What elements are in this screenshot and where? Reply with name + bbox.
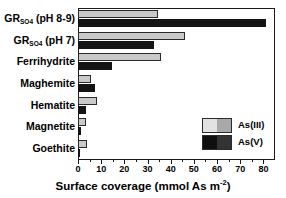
bar-asiii-0 — [78, 10, 158, 18]
category-label-base: Ferrihydrite — [17, 55, 75, 67]
x-tick-minor-75 — [252, 160, 253, 162]
x-tick-label-70: 70 — [228, 164, 252, 174]
category-label-base: Magnetite — [26, 120, 75, 132]
category-label-subscript: SO4 — [20, 18, 33, 25]
legend-label-as3: As(III) — [238, 119, 264, 130]
legend-swatch-as3 — [202, 118, 232, 133]
bar-asv-0 — [78, 19, 266, 27]
bar-asiii-2 — [78, 53, 161, 61]
legend: As(III) As(V) — [198, 116, 274, 158]
category-label-base: GR — [14, 34, 30, 46]
x-tick-label-40: 40 — [159, 164, 183, 174]
x-tick-minor-55 — [205, 160, 206, 162]
category-label-3: Maghemite — [0, 78, 75, 89]
x-tick-minor-5 — [90, 160, 91, 162]
category-label-4: Hematite — [0, 100, 75, 111]
legend-swatch-as5 — [202, 135, 232, 150]
x-tick-minor-65 — [229, 160, 230, 162]
x-axis-title-close: ) — [227, 180, 231, 192]
bar-asiii-1 — [78, 32, 185, 40]
x-tick-label-0: 0 — [66, 164, 90, 174]
category-label-suffix: (pH 8-9) — [33, 12, 75, 24]
category-label-2: Ferrihydrite — [0, 56, 75, 67]
x-tick-label-10: 10 — [89, 164, 113, 174]
category-label-suffix: (pH 7) — [42, 34, 75, 46]
bar-chart-figure: GRSO4 (pH 8-9)GRSO4 (pH 7)FerrihydriteMa… — [0, 0, 286, 198]
x-tick-minor-25 — [136, 160, 137, 162]
category-label-base: Goethite — [32, 142, 75, 154]
legend-label-as5: As(V) — [238, 136, 263, 147]
category-label-0: GRSO4 (pH 8-9) — [0, 13, 75, 25]
bar-asiii-6 — [78, 140, 87, 148]
bar-asv-4 — [78, 106, 86, 114]
x-tick-label-20: 20 — [112, 164, 136, 174]
bar-asiii-3 — [78, 75, 91, 83]
bar-asiii-4 — [78, 97, 97, 105]
bar-asv-1 — [78, 41, 154, 49]
category-label-base: Maghemite — [20, 77, 75, 89]
bar-asv-2 — [78, 62, 112, 70]
x-tick-minor-45 — [182, 160, 183, 162]
category-label-6: Goethite — [0, 143, 75, 154]
x-tick-label-50: 50 — [182, 164, 206, 174]
x-axis-title-exponent: -2 — [220, 178, 227, 187]
x-axis-title: Surface coverage (mmol As m-2) — [0, 178, 286, 192]
bar-asv-5 — [78, 127, 81, 135]
x-tick-label-80: 80 — [251, 164, 275, 174]
bar-asv-6 — [78, 149, 80, 157]
x-axis: 01020304050607080 — [78, 160, 275, 178]
x-tick-label-60: 60 — [205, 164, 229, 174]
x-tick-minor-35 — [159, 160, 160, 162]
category-label-base: GR — [4, 12, 20, 24]
category-label-5: Magnetite — [0, 121, 75, 132]
x-axis-title-text: Surface coverage (mmol As m — [56, 180, 220, 192]
category-label-subscript: SO4 — [29, 40, 42, 47]
bar-asv-3 — [78, 84, 95, 92]
bar-asiii-5 — [78, 118, 86, 126]
x-tick-minor-15 — [113, 160, 114, 162]
category-label-1: GRSO4 (pH 7) — [0, 35, 75, 47]
x-tick-label-30: 30 — [136, 164, 160, 174]
category-label-base: Hematite — [31, 99, 75, 111]
